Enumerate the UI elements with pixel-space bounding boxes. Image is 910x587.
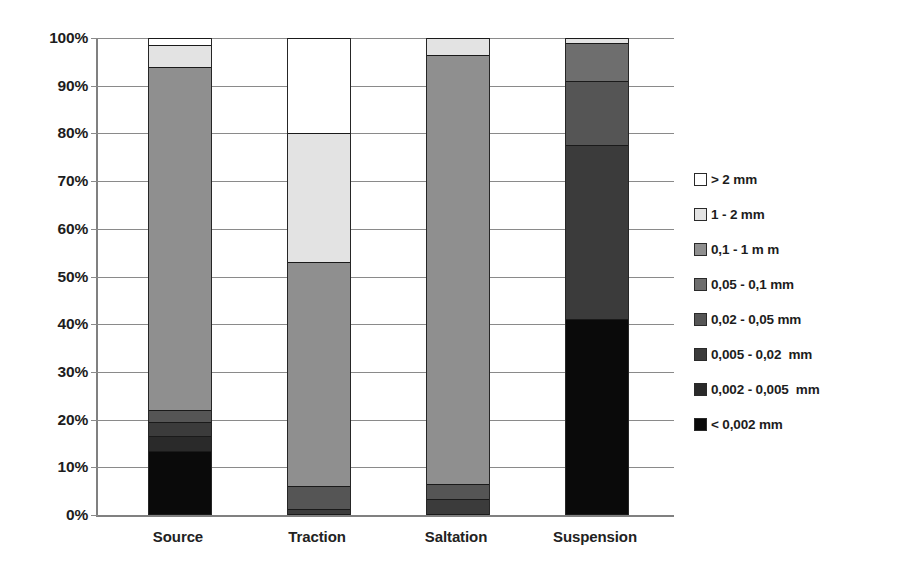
legend-item-label: 0,005 - 0,02 mm <box>711 347 812 362</box>
bar-segment <box>566 43 628 81</box>
bar-segment <box>149 38 211 45</box>
bar-segment <box>149 45 211 66</box>
legend-item: 0,005 - 0,02 mm <box>694 337 904 372</box>
y-axis-tick <box>91 515 98 516</box>
legend-item-label: 0,002 - 0,005 mm <box>711 382 820 397</box>
y-axis-label: 40% <box>18 315 88 333</box>
bar-segment <box>288 486 350 509</box>
y-axis-label: 30% <box>18 363 88 381</box>
legend-swatch-icon <box>694 383 707 396</box>
x-axis-label-saltation: Saltation <box>381 528 531 545</box>
bar-segment <box>427 55 489 484</box>
y-axis-tick <box>91 133 98 134</box>
bar-segment <box>288 509 350 515</box>
bar-segment <box>149 410 211 422</box>
y-axis-label: 60% <box>18 220 88 238</box>
bar-segment <box>288 262 350 486</box>
y-axis-label: 70% <box>18 172 88 190</box>
legend-item: < 0,002 mm <box>694 407 904 442</box>
stacked-bar-chart: 0%10%20%30%40%50%60%70%80%90%100% Source… <box>0 0 910 587</box>
legend-swatch-icon <box>694 313 707 326</box>
plot-area <box>96 38 674 517</box>
bar-traction <box>287 38 351 515</box>
y-axis: 0%10%20%30%40%50%60%70%80%90%100% <box>8 0 88 587</box>
legend-item: 0,02 - 0,05 mm <box>694 302 904 337</box>
bar-segment <box>566 81 628 145</box>
chart-legend: > 2 mm1 - 2 mm0,1 - 1 m m0,05 - 0,1 mm0,… <box>694 162 904 442</box>
legend-item-label: 0,1 - 1 m m <box>711 242 779 257</box>
bar-source <box>148 38 212 515</box>
bar-segment <box>427 499 489 515</box>
bar-segment <box>149 67 211 410</box>
bar-segment <box>149 451 211 515</box>
bar-saltation <box>426 38 490 515</box>
legend-item-label: > 2 mm <box>711 172 757 187</box>
legend-swatch-icon <box>694 208 707 221</box>
y-axis-tick <box>91 181 98 182</box>
legend-swatch-icon <box>694 173 707 186</box>
x-axis-label-traction: Traction <box>242 528 392 545</box>
y-axis-tick <box>91 277 98 278</box>
legend-item: 0,1 - 1 m m <box>694 232 904 267</box>
bar-segment <box>288 38 350 133</box>
y-axis-tick <box>91 467 98 468</box>
y-axis-tick <box>91 86 98 87</box>
y-axis-label: 80% <box>18 124 88 142</box>
y-axis-tick <box>91 229 98 230</box>
y-axis-tick <box>91 324 98 325</box>
legend-swatch-icon <box>694 348 707 361</box>
legend-swatch-icon <box>694 278 707 291</box>
y-axis-label: 90% <box>18 77 88 95</box>
bar-segment <box>566 145 628 319</box>
legend-swatch-icon <box>694 243 707 256</box>
bar-segment <box>288 133 350 262</box>
x-axis-label-source: Source <box>103 528 253 545</box>
legend-item-label: 0,05 - 0,1 mm <box>711 277 794 292</box>
legend-item: 0,05 - 0,1 mm <box>694 267 904 302</box>
legend-swatch-icon <box>694 418 707 431</box>
x-axis-label-suspension: Suspension <box>520 528 670 545</box>
y-axis-label: 0% <box>18 506 88 524</box>
legend-item: > 2 mm <box>694 162 904 197</box>
bar-segment <box>149 436 211 450</box>
bar-segment <box>149 422 211 436</box>
legend-item-label: 1 - 2 mm <box>711 207 765 222</box>
y-axis-label: 10% <box>18 458 88 476</box>
y-axis-tick <box>91 420 98 421</box>
y-axis-label: 100% <box>18 29 88 47</box>
y-axis-label: 50% <box>18 268 88 286</box>
legend-item-label: 0,02 - 0,05 mm <box>711 312 801 327</box>
legend-item: 1 - 2 mm <box>694 197 904 232</box>
bar-segment <box>427 484 489 499</box>
bar-segment <box>427 38 489 55</box>
y-axis-tick <box>91 38 98 39</box>
bar-suspension <box>565 38 629 515</box>
legend-item: 0,002 - 0,005 mm <box>694 372 904 407</box>
y-axis-label: 20% <box>18 411 88 429</box>
y-axis-tick <box>91 372 98 373</box>
legend-item-label: < 0,002 mm <box>711 417 783 432</box>
bar-segment <box>566 319 628 515</box>
